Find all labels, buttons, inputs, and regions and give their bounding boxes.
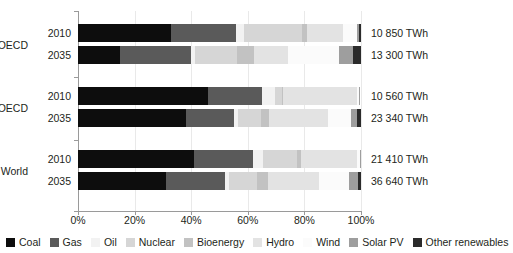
bar-segment-gas [194,150,253,168]
bar-segment-hydro [269,109,328,127]
y-axis-tick [74,11,78,12]
year-label-2035: 2035 [31,113,71,124]
bar-segment-nuclear [195,46,237,64]
bar-row [78,109,361,127]
bar-segment-nuclear [275,87,282,105]
legend-label: Coal [19,237,41,248]
legend-item-wind[interactable]: Wind [303,237,340,248]
bar-segment-gas [186,109,234,127]
bar-segment-other-renewables [358,172,361,190]
bar-segment-oil [236,24,243,42]
year-label-2035: 2035 [31,176,71,187]
bar-row [78,172,361,190]
bar-row [78,46,361,64]
bar-row [78,150,361,168]
group-label-world: World [0,166,28,177]
bar-segment-gas [171,24,236,42]
x-axis-tick-label: 0% [58,215,98,226]
x-axis-tick-label: 60% [228,215,268,226]
legend-item-nuclear[interactable]: Nuclear [126,237,175,248]
group-label-non-oecd: Non-OECD [0,103,28,114]
legend-swatch-icon [50,238,59,247]
legend-label: Bioenergy [197,237,244,248]
bar-segment-solar-pv [339,46,353,64]
bar-segment-bioenergy [261,109,269,127]
y-axis-tick [74,77,78,78]
bar-segment-bioenergy [257,172,268,190]
x-axis-tick-label: 80% [284,215,324,226]
year-label-2010: 2010 [31,91,71,102]
bar-segment-coal [78,87,208,105]
bar-segment-wind [343,24,358,42]
legend-item-hydro[interactable]: Hydro [253,237,294,248]
legend-item-oil[interactable]: Oil [91,237,117,248]
bar-segment-coal [78,150,194,168]
legend-swatch-icon [184,238,193,247]
chart-legend: CoalGasOilNuclearBioenergyHydroWindSolar… [6,235,513,249]
x-axis-tick-label: 20% [115,215,155,226]
x-axis-tick-label: 40% [171,215,211,226]
bar-segment-hydro [301,150,358,168]
bar-segment-solar-pv [360,150,361,168]
bar-value-label: 36 640 TWh [371,176,428,187]
bar-segment-other-renewables [357,109,361,127]
bar-segment-hydro [268,172,319,190]
legend-swatch-icon [349,238,358,247]
bar-segment-coal [78,46,120,64]
legend-item-bioenergy[interactable]: Bioenergy [184,237,244,248]
bar-row [78,87,361,105]
bar-segment-nuclear [238,109,261,127]
legend-swatch-icon [6,238,15,247]
bar-segment-wind [319,172,349,190]
legend-item-coal[interactable]: Coal [6,237,41,248]
legend-label: Nuclear [139,237,175,248]
legend-label: Other renewables [426,237,509,248]
bar-segment-wind [328,109,351,127]
legend-swatch-icon [91,238,100,247]
bar-segment-coal [78,24,171,42]
legend-item-gas[interactable]: Gas [50,237,82,248]
bar-value-label: 10 850 TWh [371,28,428,39]
bar-segment-bioenergy [237,46,254,64]
legend-swatch-icon [126,238,135,247]
x-axis-tick-label: 100% [341,215,381,226]
bar-segment-wind [288,46,339,64]
bar-value-label: 10 560 TWh [371,91,428,102]
bar-segment-other-renewables [359,24,361,42]
legend-label: Wind [316,237,340,248]
bar-segment-coal [78,172,166,190]
bar-segment-oil [262,87,275,105]
bar-segment-nuclear [263,150,297,168]
legend-label: Solar PV [362,237,403,248]
bar-segment-solar-pv [359,87,360,105]
gridline [361,11,362,211]
bar-segment-nuclear [229,172,257,190]
legend-swatch-icon [253,238,262,247]
group-label-oecd: OECD [0,40,28,51]
bar-segment-hydro [254,46,288,64]
bar-segment-gas [120,46,191,64]
bar-segment-nuclear [244,24,302,42]
bar-value-label: 23 340 TWh [371,113,428,124]
bar-segment-gas [208,87,262,105]
legend-item-other-renewables[interactable]: Other renewables [413,237,509,248]
bar-value-label: 13 300 TWh [371,50,428,61]
bar-segment-solar-pv [349,172,357,190]
x-axis-line [78,211,362,212]
bar-segment-other-renewables [353,46,361,64]
legend-item-solar-pv[interactable]: Solar PV [349,237,403,248]
legend-label: Hydro [266,237,294,248]
bar-segment-hydro [283,87,357,105]
bar-segment-coal [78,109,186,127]
legend-swatch-icon [413,238,422,247]
bar-segment-oil [253,150,263,168]
legend-label: Oil [104,237,117,248]
bar-row [78,24,361,42]
legend-swatch-icon [303,238,312,247]
year-label-2010: 2010 [31,28,71,39]
y-axis-tick [74,140,78,141]
bar-segment-hydro [307,24,342,42]
year-label-2035: 2035 [31,50,71,61]
legend-label: Gas [63,237,82,248]
